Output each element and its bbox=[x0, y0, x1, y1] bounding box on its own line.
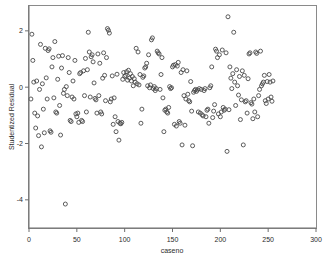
y-tick-label: -4 bbox=[17, 196, 23, 203]
y-axis-title: Studentized Residual bbox=[8, 83, 15, 150]
y-tick-label: -2 bbox=[17, 140, 23, 147]
x-tick-label: 50 bbox=[73, 236, 81, 243]
plot-canvas: 20-2-4 050100150200250300 caseno Student… bbox=[0, 0, 325, 260]
x-tick-label: 300 bbox=[310, 236, 322, 243]
x-tick-label: 100 bbox=[119, 236, 131, 243]
x-tick-label: 0 bbox=[27, 236, 31, 243]
x-tick-label: 250 bbox=[262, 236, 274, 243]
y-tick-label: 2 bbox=[19, 27, 23, 34]
x-axis-title: caseno bbox=[161, 247, 184, 254]
x-tick-label: 200 bbox=[214, 236, 226, 243]
x-tick-label: 150 bbox=[167, 236, 179, 243]
y-tick-label: 0 bbox=[19, 84, 23, 91]
scatter-plot-figure: 20-2-4 050100150200250300 caseno Student… bbox=[0, 0, 325, 260]
